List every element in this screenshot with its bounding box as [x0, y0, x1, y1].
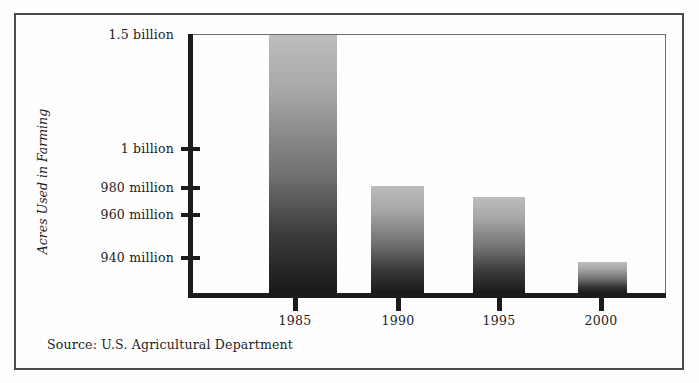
bar-1985	[269, 35, 337, 293]
y-tick-label-1-billion: 1 billion	[64, 141, 174, 156]
y-tick-label-wrap-1: 1 billion	[62, 141, 174, 157]
x-axis-line	[188, 293, 666, 298]
x-tick-label-1985: 1985	[260, 313, 330, 328]
bar-chart-figure: Acres Used in Farming 1.5 billion 1 bill…	[0, 0, 699, 383]
y-tick-label-960-million: 960 million	[64, 207, 174, 222]
x-tick-label-1990: 1990	[363, 313, 433, 328]
bar-1995	[473, 197, 525, 293]
x-tick-label-2000: 2000	[566, 313, 636, 328]
x-tick-mark-1990	[396, 297, 401, 311]
y-tick-label-wrap-4: 940 million	[62, 250, 174, 266]
x-tick-mark-1995	[497, 297, 502, 311]
x-tick-mark-1985	[293, 297, 298, 311]
x-tick-mark-2000	[599, 297, 604, 311]
y-tick-label-1-5-billion: 1.5 billion	[64, 27, 174, 42]
bar-1990	[371, 186, 424, 293]
y-axis-title: Acres Used in Farming	[35, 107, 50, 257]
x-tick-label-1995: 1995	[464, 313, 534, 328]
bar-2000	[578, 262, 627, 293]
y-tick-label-wrap-3: 960 million	[62, 207, 174, 223]
y-tick-label-wrap-0: 1.5 billion	[62, 27, 174, 43]
source-note: Source: U.S. Agricultural Department	[47, 337, 293, 352]
plot-area-frame	[188, 34, 666, 296]
y-axis-line	[188, 34, 193, 298]
y-tick-label-980-million: 980 million	[64, 180, 174, 195]
scanned-page: Acres Used in Farming 1.5 billion 1 bill…	[0, 0, 699, 383]
y-tick-label-wrap-2: 980 million	[62, 180, 174, 196]
y-tick-label-940-million: 940 million	[64, 250, 174, 265]
